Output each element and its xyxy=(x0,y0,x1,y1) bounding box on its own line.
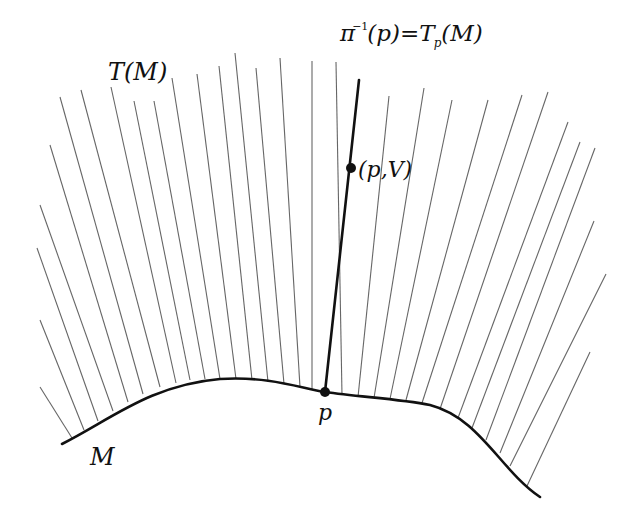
base-manifold-curve xyxy=(62,379,540,497)
fiber-line xyxy=(235,53,268,382)
fiber-line xyxy=(219,66,252,380)
fiber-line xyxy=(280,58,300,387)
fiber-line xyxy=(358,96,389,397)
highlighted-fiber-line xyxy=(325,80,359,392)
fiber-line xyxy=(172,78,220,379)
vector-point-dot xyxy=(346,163,356,173)
tangent-space-arg: (M) xyxy=(441,20,483,46)
fiber-line xyxy=(40,205,113,411)
tangent-space-T: T xyxy=(419,20,434,46)
fiber-line xyxy=(256,68,284,384)
bundle-label: T(M) xyxy=(108,60,167,84)
vector-point-label: (p,V) xyxy=(358,159,412,181)
fiber-line xyxy=(510,274,606,466)
fiber-line xyxy=(527,352,590,486)
fiber-arg: (p)= xyxy=(367,20,419,46)
fiber-line xyxy=(374,88,424,398)
fiber-line xyxy=(422,95,522,403)
fiber-line xyxy=(390,100,452,399)
diagram-canvas xyxy=(0,0,631,520)
tangent-space-subscript: p xyxy=(434,36,442,50)
fiber-line xyxy=(486,148,595,440)
fiber-line xyxy=(500,221,594,453)
fiber-line xyxy=(336,62,342,395)
fiber-line xyxy=(472,142,580,428)
tangent-bundle-diagram: π−1(p)=Tp(M) T(M) (p,V) p M xyxy=(0,0,631,520)
inverse-exponent: −1 xyxy=(352,20,368,33)
fiber-line xyxy=(406,100,488,400)
fiber-line xyxy=(440,92,548,409)
fiber-line xyxy=(40,320,84,430)
fiber-line xyxy=(111,87,176,383)
manifold-label: M xyxy=(90,445,115,469)
fiber-line xyxy=(458,122,568,418)
fiber-line xyxy=(197,74,236,379)
fiber-line xyxy=(40,387,72,438)
fiber-line xyxy=(50,145,128,402)
base-point-dot xyxy=(320,387,330,397)
fiber-label: π−1(p)=Tp(M) xyxy=(340,22,483,45)
fiber-line xyxy=(81,90,160,387)
point-label: p xyxy=(318,402,332,424)
